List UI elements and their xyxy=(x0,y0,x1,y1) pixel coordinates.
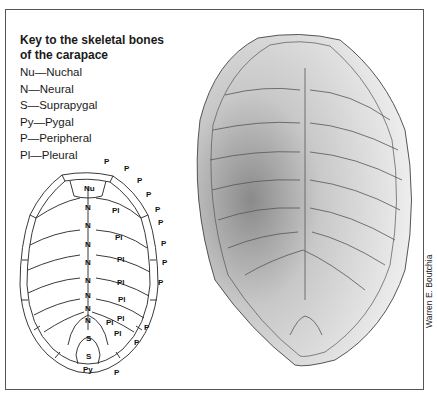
svg-text:N: N xyxy=(85,221,91,230)
svg-text:S: S xyxy=(86,352,92,361)
svg-text:P: P xyxy=(104,157,110,166)
label-nuchal: Nu xyxy=(84,184,95,193)
svg-text:N: N xyxy=(85,291,91,300)
svg-text:Pl: Pl xyxy=(115,233,123,242)
svg-text:Pl: Pl xyxy=(118,295,126,304)
carapace-schematic: Nu NNNN NNNN PlPlPlPl PlPlPlPl S S Py PP… xyxy=(0,0,437,399)
svg-text:Pl: Pl xyxy=(117,278,125,287)
svg-text:P: P xyxy=(124,164,130,173)
svg-text:N: N xyxy=(85,240,91,249)
svg-text:P: P xyxy=(144,323,150,332)
svg-text:Pl: Pl xyxy=(106,318,114,327)
svg-text:N: N xyxy=(85,304,91,313)
svg-text:P: P xyxy=(162,258,168,267)
svg-text:Pl: Pl xyxy=(112,206,120,215)
svg-text:N: N xyxy=(85,258,91,267)
svg-text:P: P xyxy=(155,205,161,214)
svg-text:S: S xyxy=(86,334,92,343)
svg-text:Pl: Pl xyxy=(114,329,122,338)
svg-text:P: P xyxy=(114,368,120,377)
svg-text:P: P xyxy=(146,190,152,199)
illustrator-credit: Warren E. Boutchia xyxy=(424,272,434,328)
carapace-illustration xyxy=(197,34,411,365)
svg-text:Py: Py xyxy=(83,365,93,374)
svg-text:P: P xyxy=(161,239,167,248)
svg-text:N: N xyxy=(85,316,91,325)
svg-text:P: P xyxy=(134,338,140,347)
svg-text:P: P xyxy=(158,218,164,227)
svg-text:Pl: Pl xyxy=(117,255,125,264)
svg-text:P: P xyxy=(158,278,164,287)
svg-text:Pl: Pl xyxy=(117,314,125,323)
svg-text:N: N xyxy=(85,276,91,285)
svg-text:P: P xyxy=(137,176,143,185)
svg-text:N: N xyxy=(85,203,91,212)
